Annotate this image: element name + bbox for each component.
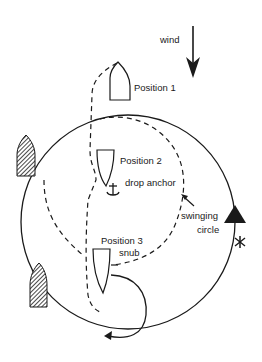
snub-label: snub — [119, 247, 140, 258]
asterisk-marker-icon — [235, 236, 245, 248]
position-3-label: Position 3 — [101, 235, 143, 246]
anchor-icon — [107, 183, 119, 195]
position-2-label: Position 2 — [120, 155, 162, 166]
boat-position-3-icon — [93, 249, 110, 293]
boat-position-2-icon — [97, 150, 114, 186]
boat-position-1-icon — [110, 62, 130, 100]
circle-label: circle — [197, 224, 219, 235]
swing-path-dashed-left — [44, 180, 84, 256]
anchoring-diagram: wind Position 1 Position 2 drop anchor s… — [0, 0, 262, 362]
moored-boat-upper-icon — [17, 135, 35, 176]
swinging-circle-boundary — [21, 115, 235, 329]
position-1-label: Position 1 — [134, 82, 176, 93]
swinging-label: swinging — [181, 210, 218, 221]
swing-around-arrowhead-icon — [104, 331, 112, 340]
wind-arrow-icon — [186, 26, 200, 78]
wind-label: wind — [159, 34, 180, 45]
triangle-buoy-icon — [224, 205, 246, 223]
swinging-circle-pointer-icon — [181, 194, 194, 206]
drop-anchor-label: drop anchor — [125, 177, 176, 188]
